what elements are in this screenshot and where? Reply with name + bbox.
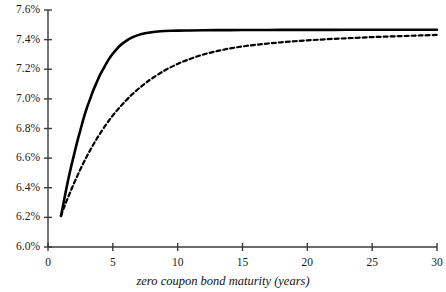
x-tick-label: 20 [287,257,327,269]
series-line-dashed-curve [61,35,437,216]
series-line-solid-curve [61,30,437,216]
y-tick-label: 7.6% [16,4,40,16]
x-axis-title: zero coupon bond maturity (years) [0,275,446,288]
yield-curve-chart: 6.0%6.2%6.4%6.6%6.8%7.0%7.2%7.4%7.6% 051… [0,0,446,292]
y-tick-label: 7.4% [16,34,40,46]
x-tick-label: 15 [223,257,263,269]
y-tick-label: 7.2% [16,63,40,75]
x-tick-label: 25 [352,257,392,269]
y-tick-label: 6.0% [16,241,40,253]
x-tick-label: 10 [158,257,198,269]
x-tick-label: 5 [93,257,133,269]
y-tick-label: 7.0% [16,93,40,105]
data-series-group [61,30,437,216]
y-tick-label: 6.2% [16,211,40,223]
y-tick-label: 6.6% [16,152,40,164]
y-tick-label: 6.8% [16,123,40,135]
x-tick-label: 0 [28,257,68,269]
x-tick-label: 30 [417,257,446,269]
axis-lines [48,10,437,247]
plot-area [0,0,446,292]
y-tick-label: 6.4% [16,182,40,194]
